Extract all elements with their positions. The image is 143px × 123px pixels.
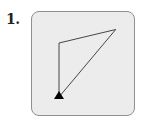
path-line [59, 30, 116, 98]
path-diagram [0, 0, 143, 123]
